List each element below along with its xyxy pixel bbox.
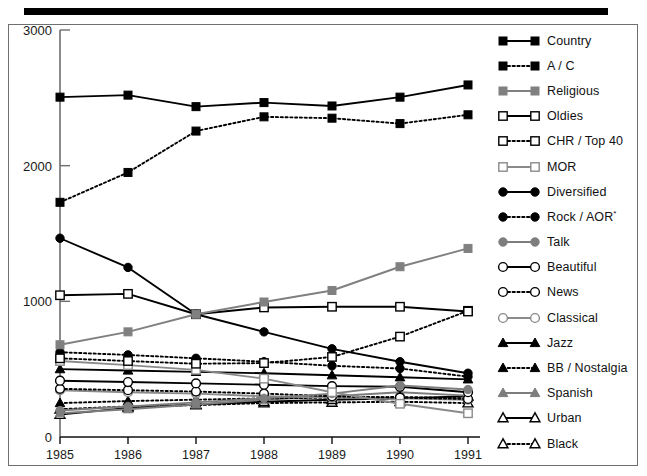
legend-swatch-circle-open-icon [497, 259, 541, 275]
x-tick-label: 1990 [386, 448, 414, 462]
data-point-marker [531, 62, 539, 70]
data-point-marker [531, 313, 540, 322]
data-point-marker [396, 120, 404, 128]
legend-item-rock-aor[interactable]: Rock / AOR* [497, 204, 643, 229]
data-point-marker [56, 406, 64, 414]
data-point-marker [499, 162, 507, 170]
data-point-marker [124, 328, 132, 336]
data-point-marker [499, 188, 507, 196]
data-point-marker [56, 93, 64, 101]
data-point-marker [192, 310, 200, 318]
data-point-marker [328, 345, 336, 353]
data-point-marker [124, 290, 132, 298]
data-point-marker [124, 263, 132, 271]
series-country [56, 81, 472, 111]
legend-item-spanish[interactable]: Spanish [497, 381, 643, 406]
data-point-marker [531, 137, 539, 145]
series-line [60, 115, 468, 203]
series-a-c [56, 111, 472, 207]
data-point-marker [56, 234, 64, 242]
x-tick-label: 1989 [318, 448, 346, 462]
legend-swatch-triangle-filled-icon [497, 385, 541, 401]
legend-item-talk[interactable]: Talk [497, 230, 643, 255]
legend-label: Country [547, 34, 591, 48]
legend-item-beautiful[interactable]: Beautiful [497, 255, 643, 280]
legend-item-country[interactable]: Country [497, 28, 643, 53]
data-point-marker [499, 213, 507, 221]
legend-item-classical[interactable]: Classical [497, 305, 643, 330]
data-point-marker [260, 374, 268, 382]
legend-swatch-triangle-filled-icon [497, 360, 541, 376]
data-point-marker [192, 398, 200, 406]
legend-item-black[interactable]: Black [497, 431, 643, 456]
legend-item-chr-top-40[interactable]: CHR / Top 40 [497, 129, 643, 154]
legend-swatch-triangle-filled-icon [497, 335, 541, 351]
legend-item-diversified[interactable]: Diversified [497, 179, 643, 204]
data-point-marker [531, 112, 539, 120]
data-point-marker [260, 298, 268, 306]
data-point-marker [328, 362, 336, 370]
figure-page: 0100020003000198519861987198819891990199… [0, 0, 647, 476]
data-point-marker [56, 291, 64, 299]
legend-swatch-square-open-icon [497, 159, 541, 175]
data-point-marker [499, 87, 507, 95]
data-point-marker [531, 162, 539, 170]
y-tick-label: 3000 [23, 23, 52, 38]
legend-label: Talk [547, 235, 570, 249]
legend-item-mor[interactable]: MOR [497, 154, 643, 179]
legend-label: CHR / Top 40 [547, 134, 623, 148]
legend-item-bb-nostalgia[interactable]: BB / Nostalgia [497, 355, 643, 380]
data-point-marker [260, 359, 268, 367]
data-point-marker [260, 113, 268, 121]
data-point-marker [499, 62, 507, 70]
data-point-marker [499, 137, 507, 145]
series-line [60, 311, 468, 364]
legend-item-oldies[interactable]: Oldies [497, 104, 643, 129]
legend-label: Classical [547, 311, 598, 325]
data-point-marker [396, 400, 404, 408]
data-point-marker [328, 286, 336, 294]
data-point-marker [464, 111, 472, 119]
data-point-marker [328, 388, 336, 396]
legend-item-urban[interactable]: Urban [497, 406, 643, 431]
legend-swatch-square-filled-icon [497, 58, 541, 74]
chart-legend: CountryA / CReligiousOldiesCHR / Top 40M… [497, 28, 643, 456]
legend-item-religious[interactable]: Religious [497, 78, 643, 103]
data-point-marker [531, 263, 540, 272]
data-point-marker [260, 394, 268, 402]
data-point-marker [124, 168, 132, 176]
data-point-marker [56, 376, 65, 385]
legend-swatch-square-open-icon [497, 133, 541, 149]
legend-swatch-circle-filled-icon [497, 234, 541, 250]
data-point-marker [464, 244, 472, 252]
data-point-marker [464, 385, 472, 393]
y-tick-label: 2000 [23, 159, 52, 174]
data-point-marker [531, 188, 539, 196]
legend-label-footnote-marker: * [613, 209, 616, 218]
series-chr-top-40 [56, 307, 472, 368]
legend-item-jazz[interactable]: Jazz [497, 330, 643, 355]
data-point-marker [499, 238, 507, 246]
data-point-marker [531, 37, 539, 45]
data-point-marker [55, 398, 65, 407]
data-point-marker [396, 332, 404, 340]
legend-item-news[interactable]: News [497, 280, 643, 305]
data-point-marker [464, 81, 472, 89]
data-point-marker [56, 198, 64, 206]
legend-swatch-square-filled-icon [497, 33, 541, 49]
legend-label: Black [547, 437, 578, 451]
x-tick-label: 1988 [250, 448, 278, 462]
x-tick-label: 1986 [114, 448, 142, 462]
data-point-marker [192, 127, 200, 135]
data-point-marker [396, 93, 404, 101]
data-point-marker [192, 103, 200, 111]
legend-label: Oldies [547, 109, 583, 123]
legend-swatch-square-open-icon [497, 108, 541, 124]
legend-item-a-c[interactable]: A / C [497, 53, 643, 78]
legend-label: News [547, 285, 579, 299]
data-point-marker [192, 379, 201, 388]
data-point-marker [464, 369, 472, 377]
legend-label: Religious [547, 84, 599, 98]
legend-label: Spanish [547, 386, 593, 400]
legend-swatch-circle-open-icon [497, 310, 541, 326]
